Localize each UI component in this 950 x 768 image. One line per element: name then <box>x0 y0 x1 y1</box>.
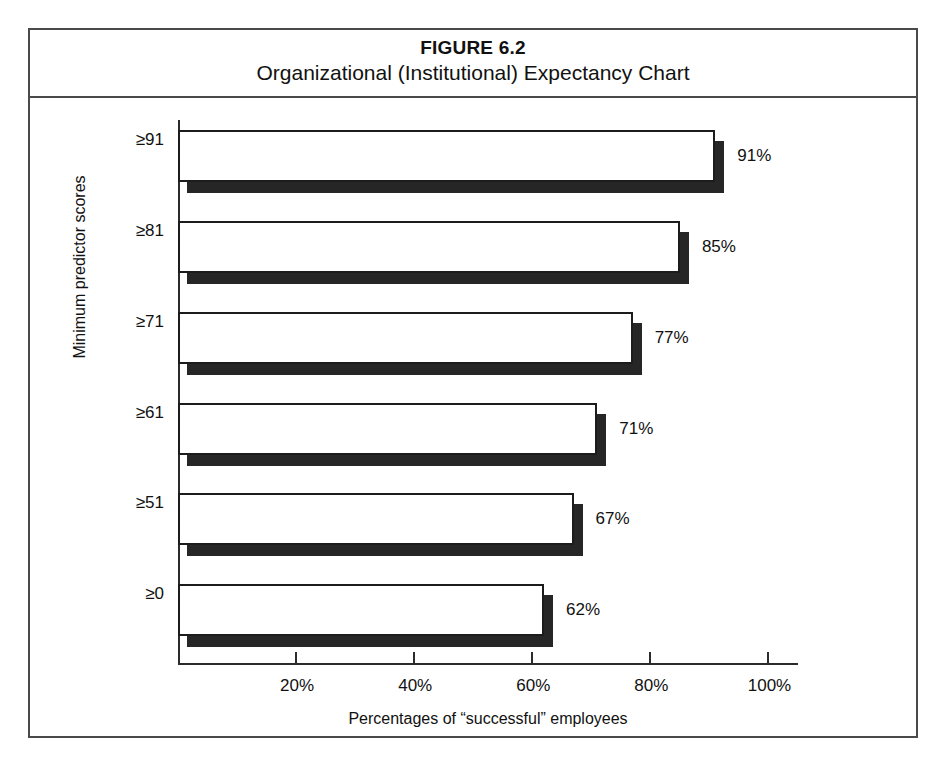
x-tick <box>295 652 297 663</box>
x-tick <box>531 652 533 663</box>
bar-row[interactable]: 85%≥81 <box>178 221 680 273</box>
figure-number: FIGURE 6.2 <box>30 30 916 59</box>
y-tick-label: ≥0 <box>74 584 164 604</box>
y-tick-label: ≥61 <box>74 403 164 423</box>
y-tick-label: ≥81 <box>74 221 164 241</box>
bar-value-label: 91% <box>737 146 771 166</box>
y-tick-label: ≥91 <box>74 130 164 150</box>
bar-row[interactable]: 91%≥91 <box>178 130 715 182</box>
bar-row[interactable]: 62%≥0 <box>178 584 544 636</box>
x-tick <box>413 652 415 663</box>
page-title: Organizational (Institutional) Expectanc… <box>30 59 916 85</box>
y-axis-title: Minimum predictor scores <box>71 157 89 377</box>
x-tick-label: 80% <box>606 676 696 696</box>
chart-axes: 20%40%60%80%100% 91%≥9185%≥8177%≥7171%≥6… <box>178 120 798 665</box>
x-axis-line <box>178 663 798 665</box>
bar-face[interactable] <box>178 312 633 364</box>
bar-value-label: 85% <box>702 236 736 256</box>
bar-value-label: 62% <box>566 600 600 620</box>
x-tick-label: 60% <box>488 676 578 696</box>
bar-face[interactable] <box>178 130 715 182</box>
y-tick-label: ≥51 <box>74 493 164 513</box>
x-tick-label: 100% <box>724 676 814 696</box>
bar-value-label: 71% <box>619 418 653 438</box>
x-axis-title: Percentages of “successful” employees <box>178 710 798 728</box>
figure-title-band: FIGURE 6.2 Organizational (Institutional… <box>30 30 916 98</box>
bar-face[interactable] <box>178 403 597 455</box>
bar-face[interactable] <box>178 221 680 273</box>
x-tick-label: 20% <box>252 676 342 696</box>
bar-row[interactable]: 71%≥61 <box>178 403 597 455</box>
bar-value-label: 67% <box>596 509 630 529</box>
x-tick-label: 40% <box>370 676 460 696</box>
plot-region: Minimum predictor scores 20%40%60%80%100… <box>30 98 916 736</box>
x-tick <box>767 652 769 663</box>
bar-row[interactable]: 77%≥71 <box>178 312 633 364</box>
figure-frame: FIGURE 6.2 Organizational (Institutional… <box>28 28 918 738</box>
bar-face[interactable] <box>178 584 544 636</box>
x-tick <box>649 652 651 663</box>
bar-value-label: 77% <box>655 327 689 347</box>
bar-face[interactable] <box>178 493 574 545</box>
bar-row[interactable]: 67%≥51 <box>178 493 574 545</box>
y-tick-label: ≥71 <box>74 312 164 332</box>
